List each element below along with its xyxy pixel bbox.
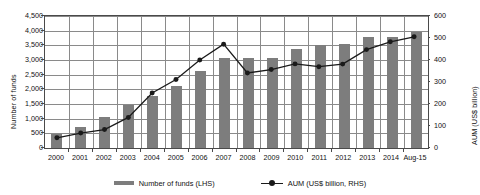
line-marker [245,71,250,76]
x-axis-tick-label: 2006 [188,153,212,162]
line-marker [150,90,155,95]
line-marker [126,115,131,120]
line-marker [197,58,202,63]
x-axis-tickmark [68,149,69,152]
line-marker [221,42,226,47]
plot-area [44,15,429,149]
x-axis-tickmark [116,149,117,152]
line-marker [173,77,178,82]
y-axis-right-tick-label: 200 [434,99,446,108]
y-axis-right-tick-label: 400 [434,55,446,64]
x-axis-tick-label: 2013 [355,153,379,162]
x-axis-tick-label: 2009 [259,153,283,162]
line-marker [364,47,369,52]
x-axis-tickmark [355,149,356,152]
legend-label-funds: Number of funds (LHS) [139,179,215,188]
line-path [57,37,414,138]
x-axis-tick-label: 2011 [307,153,331,162]
y-axis-right-tick-label: 300 [434,77,446,86]
x-axis-tick-label: 2003 [116,153,140,162]
y-axis-right-tick-label: 500 [434,33,446,42]
chart-container: Number of funds AUM (US$ billion) 05001,… [0,0,480,195]
x-axis-tickmark [403,149,404,152]
x-axis-tickmark [379,149,380,152]
x-axis-tick-label: 2014 [379,153,403,162]
x-axis-tick-label: 2004 [140,153,164,162]
x-axis-tickmark [331,149,332,152]
x-axis-tick-label: 2010 [283,153,307,162]
y-axis-right-title: AUM (US$ billion) [470,86,479,145]
x-axis-tickmark [307,149,308,152]
x-axis-tick-label: 2008 [236,153,260,162]
legend-label-aum: AUM (US$ billion, RHS) [288,179,366,188]
x-axis-tick-label: 2005 [164,153,188,162]
line-marker [54,135,59,140]
legend-item-funds: Number of funds (LHS) [114,179,215,188]
x-axis-tick-label: 2001 [68,153,92,162]
line-series [45,16,428,148]
chart-legend: Number of funds (LHS) AUM (US$ billion, … [0,175,480,191]
x-axis-tickmark [212,149,213,152]
line-marker [316,64,321,69]
line-marker [340,62,345,67]
x-axis-tick-label: 2000 [44,153,68,162]
x-axis-tickmark [140,149,141,152]
y-axis-right-tick-label: 100 [434,121,446,130]
x-axis-tickmark [236,149,237,152]
line-marker [102,127,107,132]
x-axis-tickmark [188,149,189,152]
y-axis-right-tick-label: 600 [434,11,446,20]
legend-item-aum: AUM (US$ billion, RHS) [261,179,366,188]
line-swatch-icon [261,180,283,187]
x-axis-tickmark [283,149,284,152]
x-axis-tickmark [92,149,93,152]
bar-swatch-icon [114,181,134,185]
x-axis-tickmark [164,149,165,152]
x-axis-tick-label: 2012 [331,153,355,162]
line-marker [78,131,83,136]
line-marker [269,67,274,72]
x-axis-tickmark [259,149,260,152]
y-axis-right-tick-label: 0 [434,143,438,152]
x-axis-tick-label: 2002 [92,153,116,162]
line-marker [293,61,298,66]
x-axis-tick-label: Aug-15 [403,153,427,162]
x-axis-tick-label: 2007 [212,153,236,162]
line-marker [412,34,417,39]
y-axis-left-title: Number of funds [9,74,18,129]
line-marker [388,39,393,44]
